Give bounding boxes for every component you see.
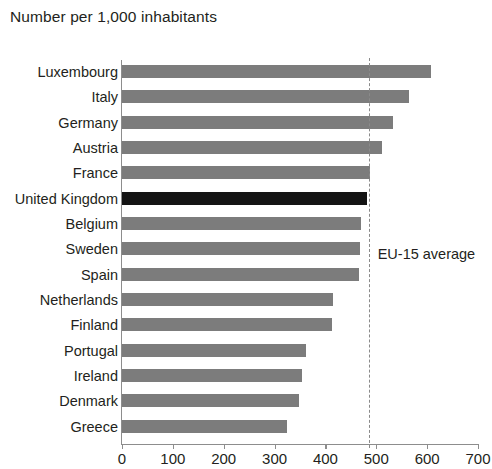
category-label-germany: Germany	[0, 116, 118, 130]
category-label-denmark: Denmark	[0, 394, 118, 408]
x-axis-line	[121, 444, 478, 445]
category-label-greece: Greece	[0, 420, 118, 434]
plot-area: Luxembourg Italy Germany Austria France …	[0, 0, 492, 469]
eu15-average-label: EU-15 average	[378, 246, 476, 262]
category-label-belgium: Belgium	[0, 217, 118, 231]
x-tick-6	[427, 444, 428, 449]
category-label-italy: Italy	[0, 90, 118, 104]
bar-ireland	[122, 369, 302, 382]
bar-denmark	[122, 394, 299, 407]
bar-spain	[122, 268, 359, 281]
y-axis-line	[121, 60, 122, 445]
category-label-netherlands: Netherlands	[0, 293, 118, 307]
bar-finland	[122, 318, 332, 331]
category-label-austria: Austria	[0, 141, 118, 155]
x-tick-2	[224, 444, 225, 449]
category-label-finland: Finland	[0, 318, 118, 332]
bar-austria	[122, 141, 382, 154]
category-label-sweden: Sweden	[0, 242, 118, 256]
bar-netherlands	[122, 293, 333, 306]
eu15-average-line	[369, 58, 370, 448]
bar-luxembourg	[122, 65, 431, 78]
category-label-france: France	[0, 166, 118, 180]
bar-chart-figure: Number per 1,000 inhabitants Luxembourg …	[0, 0, 492, 469]
bar-united-kingdom	[122, 192, 367, 205]
category-label-united-kingdom: United Kingdom	[0, 192, 118, 206]
category-label-luxembourg: Luxembourg	[0, 65, 118, 79]
x-tick-label-7: 700	[448, 450, 492, 467]
bar-greece	[122, 420, 287, 433]
x-tick-3	[275, 444, 276, 449]
bar-germany	[122, 116, 393, 129]
x-tick-1	[173, 444, 174, 449]
x-tick-7	[478, 444, 479, 449]
x-tick-0	[122, 444, 123, 449]
category-label-spain: Spain	[0, 268, 118, 282]
x-tick-5	[376, 444, 377, 449]
category-label-portugal: Portugal	[0, 344, 118, 358]
bar-italy	[122, 90, 409, 103]
x-tick-4	[325, 444, 326, 449]
category-label-ireland: Ireland	[0, 369, 118, 383]
bar-portugal	[122, 344, 306, 357]
bar-france	[122, 166, 370, 179]
bar-sweden	[122, 242, 360, 255]
bar-belgium	[122, 217, 361, 230]
